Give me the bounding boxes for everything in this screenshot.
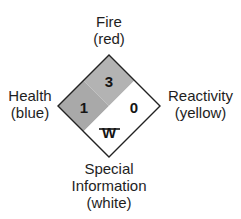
hazard-diamond: 3 1 0 W xyxy=(0,0,241,219)
fire-rating: 3 xyxy=(105,73,113,90)
health-rating: 1 xyxy=(80,99,88,116)
reactivity-rating: 0 xyxy=(130,99,138,116)
special-rating: W xyxy=(102,124,117,141)
